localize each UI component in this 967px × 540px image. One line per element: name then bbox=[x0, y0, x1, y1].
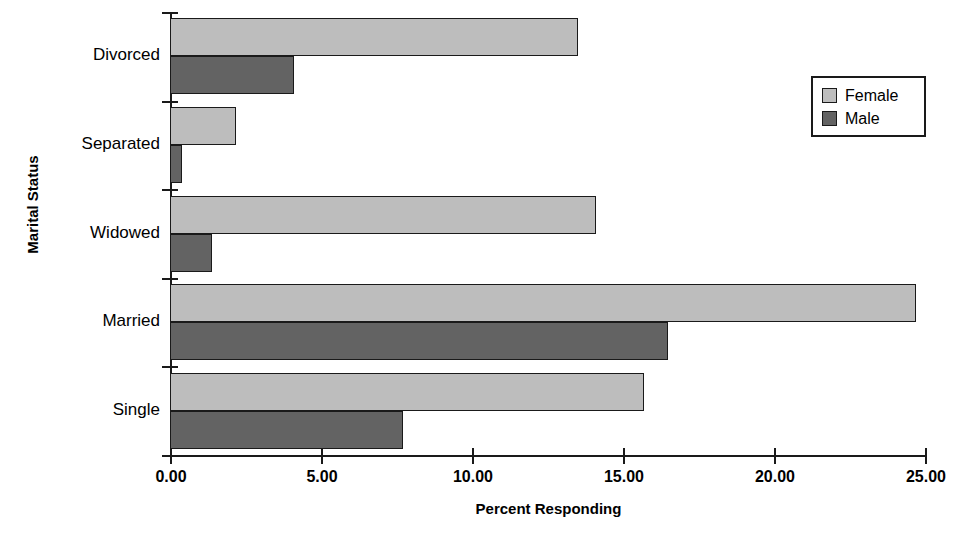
bar-separated-female bbox=[170, 107, 236, 145]
bar-single-female bbox=[170, 373, 644, 411]
bar-single-male bbox=[170, 411, 403, 449]
y-tick-label-divorced: Divorced bbox=[30, 45, 160, 65]
y-tick-mark bbox=[162, 366, 178, 368]
x-tick-label-15.00: 15.00 bbox=[579, 468, 669, 486]
legend-item-female[interactable]: Female bbox=[822, 84, 924, 107]
y-tick-mark bbox=[162, 12, 178, 14]
bar-widowed-male bbox=[170, 234, 212, 272]
legend-label-male: Male bbox=[845, 111, 880, 127]
legend-swatch-female-icon bbox=[822, 88, 837, 103]
x-tick-label-10.00: 10.00 bbox=[428, 468, 518, 486]
x-tick-mark bbox=[472, 448, 474, 464]
legend: Female Male bbox=[811, 76, 926, 137]
y-tick-mark bbox=[162, 455, 178, 457]
y-tick-mark bbox=[162, 278, 178, 280]
bar-chart: Marital Status DivorcedSeparatedWidowedM… bbox=[0, 0, 967, 540]
x-tick-mark bbox=[623, 448, 625, 464]
bar-divorced-male bbox=[170, 56, 294, 94]
bar-widowed-female bbox=[170, 196, 596, 234]
y-tick-mark bbox=[162, 101, 178, 103]
bar-married-male bbox=[170, 322, 668, 360]
y-tick-label-separated: Separated bbox=[30, 134, 160, 154]
x-tick-mark bbox=[774, 448, 776, 464]
bar-married-female bbox=[170, 284, 916, 322]
bar-separated-male bbox=[170, 145, 182, 183]
y-tick-label-widowed: Widowed bbox=[30, 223, 160, 243]
y-tick-mark bbox=[162, 189, 178, 191]
x-tick-mark bbox=[321, 448, 323, 464]
x-tick-label-0.00: 0.00 bbox=[126, 468, 216, 486]
bar-divorced-female bbox=[170, 18, 578, 56]
y-tick-label-single: Single bbox=[30, 400, 160, 420]
legend-label-female: Female bbox=[845, 88, 898, 104]
legend-swatch-male-icon bbox=[822, 111, 837, 126]
x-axis-line bbox=[170, 455, 927, 457]
x-axis-title: Percent Responding bbox=[170, 500, 927, 517]
y-tick-label-married: Married bbox=[30, 311, 160, 331]
x-tick-label-5.00: 5.00 bbox=[277, 468, 367, 486]
legend-item-male[interactable]: Male bbox=[822, 107, 924, 130]
y-axis-tick-labels: DivorcedSeparatedWidowedMarriedSingle bbox=[20, 0, 160, 460]
x-tick-mark bbox=[925, 448, 927, 464]
x-tick-label-25.00: 25.00 bbox=[881, 468, 967, 486]
x-tick-label-20.00: 20.00 bbox=[730, 468, 820, 486]
